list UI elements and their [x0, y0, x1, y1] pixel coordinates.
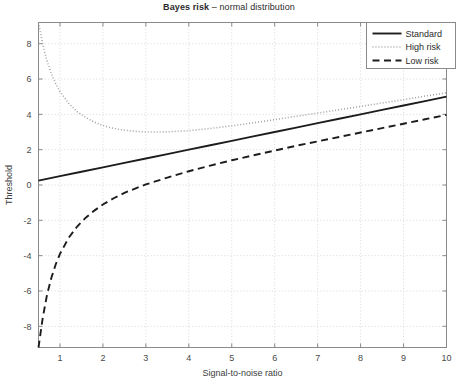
series-line-standard — [39, 97, 447, 181]
chart-legend: StandardHigh riskLow risk — [367, 23, 456, 69]
y-tick-label: -6 — [23, 286, 31, 296]
plot-canvas: 12345678910-8-6-4-202468 Signal-to-noise… — [0, 0, 458, 385]
y-tick-label: 0 — [26, 180, 31, 190]
legend-label-high-risk: High risk — [406, 42, 442, 52]
x-tick-label: 1 — [57, 353, 62, 363]
axis-tick-labels: 12345678910-8-6-4-202468 — [23, 39, 451, 363]
axis-titles: Signal-to-noise ratioThreshold — [4, 165, 283, 378]
x-axis-title: Signal-to-noise ratio — [202, 368, 282, 378]
x-tick-label: 6 — [272, 353, 277, 363]
y-tick-label: 4 — [26, 110, 31, 120]
x-tick-label: 10 — [441, 353, 451, 363]
x-tick-label: 8 — [358, 353, 363, 363]
y-tick-label: -4 — [23, 251, 31, 261]
legend-label-low-risk: Low risk — [406, 56, 440, 66]
y-tick-label: -8 — [23, 322, 31, 332]
x-tick-label: 5 — [229, 353, 234, 363]
x-tick-label: 7 — [315, 353, 320, 363]
y-axis-title: Threshold — [4, 165, 14, 205]
x-tick-label: 2 — [100, 353, 105, 363]
legend-label-standard: Standard — [406, 29, 443, 39]
y-tick-label: 6 — [26, 74, 31, 84]
x-tick-label: 4 — [186, 353, 191, 363]
grid-lines — [39, 23, 447, 348]
y-tick-label: 8 — [26, 39, 31, 49]
chart-figure: Bayes risk – normal distribution 1234567… — [0, 0, 458, 385]
y-tick-label: 2 — [26, 145, 31, 155]
x-tick-label: 3 — [143, 353, 148, 363]
y-tick-label: -2 — [23, 216, 31, 226]
x-tick-label: 9 — [401, 353, 406, 363]
